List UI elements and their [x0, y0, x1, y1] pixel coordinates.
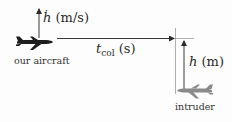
intruder-label: intruder	[175, 101, 215, 112]
intruder-aircraft-icon	[177, 85, 213, 99]
own-aircraft-icon	[16, 37, 53, 51]
time-to-collision-unit: (s)	[119, 41, 136, 56]
relative-altitude-unit: (m)	[202, 54, 224, 69]
time-to-collision-label: tcol (s)	[96, 41, 136, 58]
collision-avoidance-diagram: ḣ (m/s) tcol (s) h (m) our aircraft intr…	[0, 0, 232, 122]
relative-altitude-label: h (m)	[189, 54, 224, 69]
vertical-rate-label: ḣ (m/s)	[43, 10, 89, 25]
time-to-collision-subscript: col	[101, 48, 114, 58]
vertical-rate-symbol: ḣ	[43, 10, 51, 25]
relative-altitude-symbol: h	[189, 54, 197, 69]
vertical-rate-unit: (m/s)	[56, 10, 90, 25]
own-aircraft-label: our aircraft	[14, 55, 70, 66]
